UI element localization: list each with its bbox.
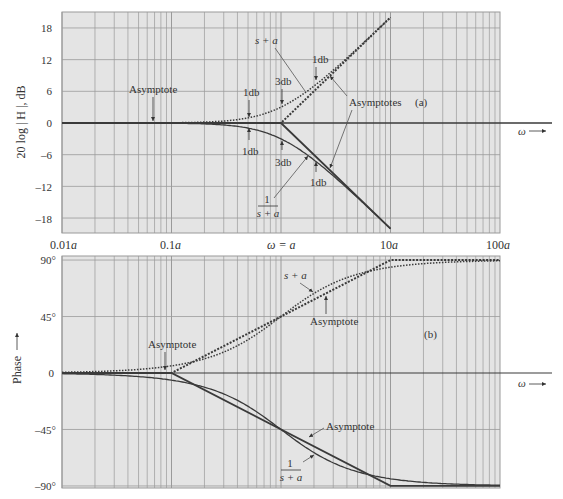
x-tick-0.01a: 0.01a bbox=[50, 238, 77, 252]
annotation-3db: 3db bbox=[275, 156, 292, 168]
annotation-s-plus-a: s + a bbox=[284, 269, 307, 281]
annotation-3db: 3db bbox=[275, 75, 292, 87]
y-tick: –90° bbox=[34, 480, 56, 492]
phase-y-label: Phase bbox=[10, 356, 24, 384]
y-tick: 45° bbox=[41, 311, 56, 323]
annotation-asymptote: Asymptote bbox=[326, 420, 374, 432]
y-tick: 6 bbox=[47, 85, 53, 97]
x-tick-omega-a: ω = a bbox=[267, 238, 296, 252]
annotation-asymptote: Asymptote bbox=[148, 338, 196, 350]
annotation-asymptote: Asymptote bbox=[310, 315, 358, 327]
y-tick: 12 bbox=[41, 54, 52, 66]
y-tick: –12 bbox=[35, 181, 53, 193]
annotation-1db: 1db bbox=[310, 176, 327, 188]
annotation-1db: 1db bbox=[242, 145, 259, 157]
y-tick: –18 bbox=[35, 213, 53, 225]
x-tick-10a: 10a bbox=[380, 238, 398, 252]
annotation-s-plus-a: s + a bbox=[255, 34, 278, 46]
phase-plot: 90° 45° 0 –45° –90° Phase Asymptote s + … bbox=[10, 254, 552, 492]
x-tick-100a: 100a bbox=[486, 238, 510, 252]
y-tick: 0 bbox=[49, 367, 55, 379]
y-tick: 90° bbox=[41, 254, 56, 266]
omega-axis-label: ω bbox=[518, 377, 526, 389]
annotation-1db: 1db bbox=[312, 53, 329, 65]
y-tick: –45° bbox=[34, 424, 56, 436]
magnitude-y-ticks: 18 12 6 0 –6 –12 –18 bbox=[35, 22, 53, 225]
annotation-fraction-denominator: s + a bbox=[257, 207, 280, 219]
magnitude-plot: 18 12 6 0 –6 –12 –18 20 log | H |, dB As… bbox=[14, 12, 552, 233]
y-tick: –6 bbox=[40, 149, 53, 161]
annotation-fraction-denominator: s + a bbox=[280, 471, 303, 483]
omega-axis-label: ω bbox=[518, 125, 526, 137]
annotation-fraction-numerator: 1 bbox=[287, 457, 293, 469]
panel-label-a: (a) bbox=[415, 96, 428, 109]
annotation-asymptotes: Asymptotes bbox=[349, 96, 402, 108]
x-tick-0.1a: 0.1a bbox=[160, 238, 181, 252]
phase-y-ticks: 90° 45° 0 –45° –90° bbox=[34, 254, 56, 492]
y-tick: 0 bbox=[47, 117, 53, 129]
annotation-fraction-numerator: 1 bbox=[264, 193, 270, 205]
magnitude-y-label: 20 log | H |, dB bbox=[14, 86, 28, 159]
annotation-asymptote: Asymptote bbox=[129, 83, 177, 95]
bode-plot: 18 12 6 0 –6 –12 –18 20 log | H |, dB As… bbox=[0, 0, 563, 499]
frequency-axis-labels: 0.01a 0.1a ω = a 10a 100a bbox=[50, 238, 510, 252]
panel-label-b: (b) bbox=[424, 328, 437, 341]
y-tick: 18 bbox=[41, 22, 53, 34]
annotation-1db: 1db bbox=[243, 86, 260, 98]
